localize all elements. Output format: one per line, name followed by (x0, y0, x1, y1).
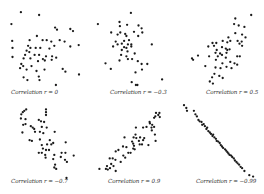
scatter-point (155, 112, 157, 114)
scatter-point (41, 126, 43, 128)
scatter-point (36, 35, 38, 37)
scatter-point (139, 143, 141, 145)
scatter-point (112, 165, 114, 167)
scatter-panel-r-0: Correlation r = 0 (0, 0, 88, 97)
scatter-point (55, 84, 57, 86)
scatter-panel-r-neg-0-7: Correlation r = −0.7 (0, 97, 88, 194)
scatter-point (40, 120, 42, 122)
scatter-point (122, 145, 124, 147)
scatter-point (243, 170, 245, 172)
panel-title: Correlation r = 0.5 (206, 89, 258, 95)
scatter-point (211, 42, 213, 44)
scatter-point (41, 152, 43, 154)
scatter-point (227, 36, 229, 38)
scatter-point (54, 131, 56, 133)
scatter-point (20, 113, 22, 115)
scatter-point (21, 131, 23, 133)
scatter-point (54, 26, 56, 28)
scatter-point (138, 140, 140, 142)
scatter-point (149, 122, 151, 124)
scatter-point (238, 43, 240, 45)
scatter-point (158, 112, 160, 114)
scatter-point (22, 57, 24, 59)
scatter-point (50, 143, 52, 145)
scatter-point (239, 55, 241, 57)
scatter-point (147, 144, 149, 146)
scatter-point (127, 43, 129, 45)
scatter-point (24, 123, 26, 125)
scatter-point (64, 71, 66, 73)
scatter-point (120, 54, 122, 56)
scatter-point (110, 163, 112, 165)
scatter-point (154, 133, 156, 135)
scatter-point (153, 117, 155, 119)
scatter-point (110, 68, 112, 70)
scatter-point (118, 59, 120, 61)
scatter-point (109, 167, 111, 169)
scatter-point (212, 82, 214, 84)
scatter-point (45, 108, 47, 110)
scatter-point (38, 119, 40, 121)
scatter-point (25, 68, 27, 70)
scatter-point (129, 152, 131, 154)
scatter-point (127, 152, 129, 154)
scatter-point (221, 46, 223, 48)
scatter-point (42, 132, 44, 134)
scatter-point (114, 159, 116, 161)
scatter-point (34, 131, 36, 133)
scatter-point (97, 23, 99, 25)
scatter-point (38, 75, 40, 77)
scatter-point (183, 104, 185, 106)
scatter-point (212, 133, 214, 135)
scatter-point (233, 62, 235, 64)
scatter-point (45, 111, 47, 113)
scatter-point (20, 117, 22, 119)
scatter-point (35, 70, 37, 72)
scatter-point (186, 110, 188, 112)
scatter-point (241, 167, 243, 169)
panel-title: Correlation r = −0.7 (11, 178, 68, 184)
panel-title: Correlation r = 0.9 (108, 178, 160, 184)
scatter-point (42, 58, 44, 60)
scatter-point (125, 146, 127, 148)
panel-title: Correlation r = −0.99 (196, 178, 256, 184)
correlation-figure: { "chart_data": [ { "type": "scatter", "… (0, 0, 264, 194)
scatter-point (109, 157, 111, 159)
scatter-point (215, 59, 217, 61)
scatter-point (22, 111, 24, 113)
scatter-point (44, 157, 46, 159)
scatter-point (52, 158, 54, 160)
scatter-point (127, 58, 129, 60)
scatter-point (215, 138, 217, 140)
scatter-point (140, 63, 142, 65)
scatter-point (31, 140, 33, 142)
scatter-point (38, 79, 40, 81)
scatter-point (112, 45, 114, 47)
scatter-point (236, 55, 238, 57)
scatter-panel-r-neg-0-99: Correlation r = −0.99 (176, 97, 264, 194)
scatter-point (98, 168, 100, 170)
scatter-point (141, 143, 143, 145)
scatter-point (222, 40, 224, 42)
scatter-point (26, 79, 28, 81)
scatter-point (65, 141, 67, 143)
scatter-point (123, 46, 125, 48)
scatter-point (63, 40, 65, 42)
scatter-point (78, 44, 80, 46)
scatter-point (39, 138, 41, 140)
scatter-point (53, 166, 55, 168)
scatter-point (112, 157, 114, 159)
scatter-point (39, 131, 41, 133)
scatter-point (216, 49, 218, 51)
scatter-point (204, 65, 206, 67)
scatter-point (229, 40, 231, 42)
scatter-point (64, 159, 66, 161)
scatter-point (41, 144, 43, 146)
scatter-point (128, 39, 130, 41)
scatter-point (60, 156, 62, 158)
scatter-point (194, 113, 196, 115)
scatter-point (46, 39, 48, 41)
scatter-point (56, 29, 58, 31)
scatter-point (119, 31, 121, 33)
scatter-point (222, 77, 224, 79)
